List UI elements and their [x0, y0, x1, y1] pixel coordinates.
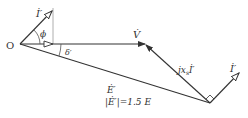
vector-i-prime-right: [210, 73, 239, 103]
e-prime-magnitude-label: |Ė′|=1.5 E: [105, 96, 151, 108]
delta-angle-arc: [59, 44, 61, 56]
i-prime-left-label: İ′: [35, 8, 43, 19]
phi-label: ϕ: [40, 29, 46, 39]
delta-label: δ′: [65, 48, 72, 57]
v-label: V̇: [133, 29, 142, 40]
phasor-diagram: O İ′ ϕ δ′ V̇ jxsİ′ İ′ Ė′ |Ė′|=1.5 E: [0, 0, 248, 118]
jxs-label: jxsİ′: [176, 64, 195, 76]
e-prime-label: Ė′: [106, 84, 116, 95]
i-prime-right-label: İ′: [229, 63, 237, 74]
right-angle-marker: [206, 95, 214, 99]
open-arrowhead-on-v: [44, 41, 53, 47]
origin-label: O: [6, 40, 14, 51]
